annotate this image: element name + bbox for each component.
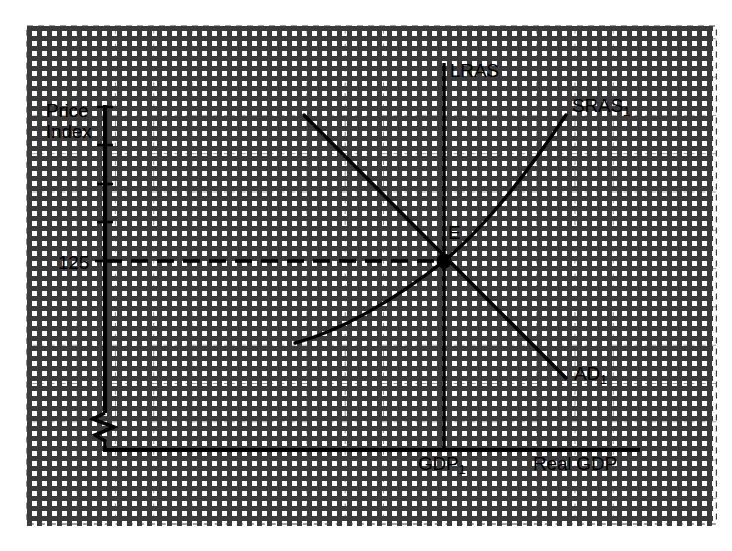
y-axis-title-line2: Index	[46, 121, 91, 142]
lras-label: LRAS	[450, 60, 499, 81]
x-axis-title: Real GDP	[533, 453, 617, 474]
y-axis-break-icon	[93, 413, 114, 450]
ad1-label-base: AD	[574, 363, 600, 384]
sras1-label: SRAS1	[572, 95, 630, 116]
y-axis-title-line1: Price	[46, 100, 91, 121]
equilibrium-label: E	[448, 222, 460, 243]
equilibrium-point-dot	[437, 254, 452, 269]
sras1-label-base: SRAS	[572, 95, 623, 116]
sras1-curve	[295, 115, 566, 343]
ad1-label-subscript: 1	[600, 372, 607, 387]
ad1-curve	[304, 115, 566, 378]
y-axis-title: Price Index	[46, 100, 91, 142]
gdp1-label-base: GDP	[418, 453, 459, 474]
ad1-label: AD1	[574, 363, 607, 384]
sras1-label-subscript: 1	[623, 104, 630, 119]
gdp1-label: GDP1	[418, 453, 466, 474]
plot-lines	[0, 0, 732, 551]
diagram-canvas: Price Index 125 LRAS SRAS1 AD1 E GDP1 Re…	[0, 0, 732, 551]
y-tick-label-125: 125	[58, 252, 89, 273]
gdp1-label-subscript: 1	[459, 462, 466, 477]
